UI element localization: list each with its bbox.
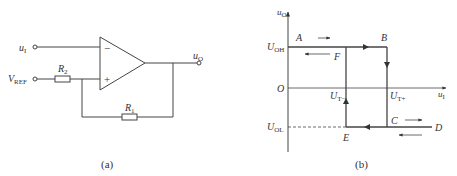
caption-b: (b) xyxy=(355,158,368,171)
point-b: B xyxy=(381,32,387,43)
svg-text:UT+: UT+ xyxy=(390,90,406,103)
transfer-characteristic xyxy=(288,12,446,152)
ref-terminal xyxy=(33,77,37,81)
point-e: E xyxy=(342,132,349,143)
characteristic-labels: uO uI O UOH UOL UT− UT+ A B F C D E (b) xyxy=(267,7,446,171)
circuit-diagram xyxy=(33,37,201,120)
resistor-r1 xyxy=(122,114,137,120)
minus-sign: − xyxy=(104,42,110,54)
point-f: F xyxy=(333,51,341,62)
svg-text:R2: R2 xyxy=(57,63,68,76)
svg-text:uO: uO xyxy=(193,50,203,63)
svg-text:uI: uI xyxy=(438,89,446,101)
point-d: D xyxy=(434,122,443,133)
svg-text:uI: uI xyxy=(19,42,27,55)
svg-text:uO: uO xyxy=(277,7,287,19)
svg-text:VREF: VREF xyxy=(8,73,27,86)
figure-canvas: − + uI VREF uO R2 R1 (a) uO uI O UOH xyxy=(0,0,457,176)
point-a: A xyxy=(295,32,303,43)
point-c: C xyxy=(391,115,398,126)
caption-a: (a) xyxy=(101,158,114,171)
r1-label: R xyxy=(124,102,131,113)
svg-text:UOL: UOL xyxy=(267,121,284,134)
svg-text:UT−: UT− xyxy=(330,90,346,103)
input-terminal xyxy=(33,45,37,49)
svg-text:UOH: UOH xyxy=(267,41,284,54)
r2-label: R xyxy=(57,63,64,74)
resistor-r2 xyxy=(55,76,70,82)
plus-sign: + xyxy=(104,73,110,85)
svg-text:R1: R1 xyxy=(124,102,135,115)
origin-label: O xyxy=(277,83,284,94)
